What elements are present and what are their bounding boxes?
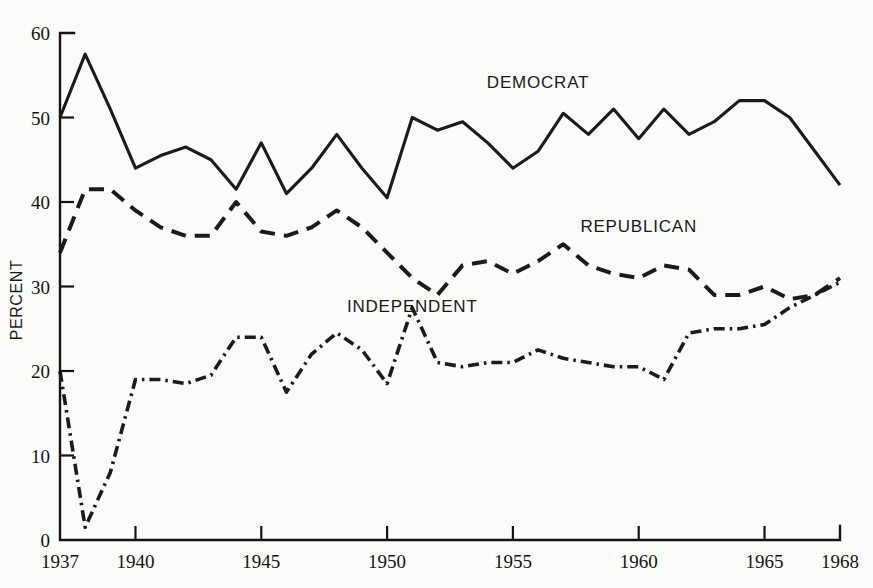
x-tick-label: 1945: [242, 551, 280, 572]
axis-spine: [60, 33, 840, 540]
y-tick-label: 60: [31, 23, 50, 44]
y-tick-label: 40: [31, 192, 50, 213]
series-line-republican: [60, 189, 840, 299]
y-tick-label: 50: [31, 108, 50, 129]
x-tick-label: 1968: [821, 551, 859, 572]
series-label-independent: INDEPENDENT: [347, 297, 478, 316]
x-axis-ticks: 19371940194519501955196019651968: [41, 526, 859, 572]
line-chart: 0102030405060 19371940194519501955196019…: [0, 0, 873, 588]
y-tick-label: 20: [31, 361, 50, 382]
x-tick-label: 1937: [41, 551, 79, 572]
series-group: [60, 54, 840, 527]
series-labels-group: DEMOCRATREPUBLICANINDEPENDENT: [347, 73, 697, 316]
x-tick-label: 1960: [620, 551, 658, 572]
axes-group: [60, 33, 840, 540]
x-tick-label: 1940: [116, 551, 154, 572]
chart-container: 0102030405060 19371940194519501955196019…: [0, 0, 873, 588]
x-tick-label: 1965: [746, 551, 784, 572]
series-label-democrat: DEMOCRAT: [487, 73, 589, 92]
y-tick-label: 30: [31, 277, 50, 298]
series-line-independent: [60, 282, 840, 527]
x-tick-label: 1955: [494, 551, 532, 572]
series-label-republican: REPUBLICAN: [580, 217, 697, 236]
y-axis-title: PERCENT: [8, 260, 25, 341]
y-tick-label: 0: [41, 530, 51, 551]
series-line-democrat: [60, 54, 840, 198]
x-tick-label: 1950: [368, 551, 406, 572]
y-tick-label: 10: [31, 446, 50, 467]
